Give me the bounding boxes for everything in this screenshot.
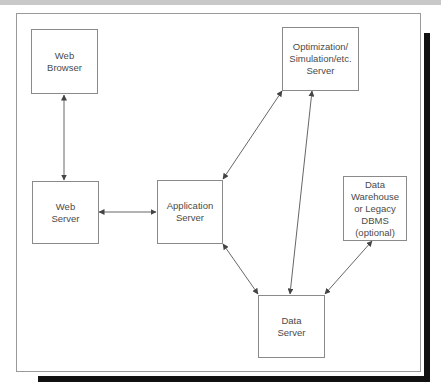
frame-shadow-bottom	[38, 376, 430, 382]
node-data-warehouse-label: Data Warehouse or Legacy DBMS (optional)	[351, 179, 399, 239]
node-application-server-label: Application Server	[167, 200, 213, 224]
node-application-server: Application Server	[157, 180, 223, 244]
node-web-browser: Web Browser	[31, 29, 98, 94]
node-optimization-server-label: Optimization/ Simulation/etc. Server	[289, 41, 351, 77]
node-optimization-server: Optimization/ Simulation/etc. Server	[282, 27, 359, 91]
node-data-server: Data Server	[258, 295, 325, 358]
node-web-server-label: Web Server	[52, 201, 80, 225]
node-web-server: Web Server	[32, 181, 99, 244]
node-web-browser-label: Web Browser	[47, 50, 82, 74]
node-data-server-label: Data Server	[278, 315, 306, 339]
top-band	[0, 0, 441, 5]
node-data-warehouse: Data Warehouse or Legacy DBMS (optional)	[343, 176, 407, 241]
frame-shadow-right	[424, 33, 430, 382]
